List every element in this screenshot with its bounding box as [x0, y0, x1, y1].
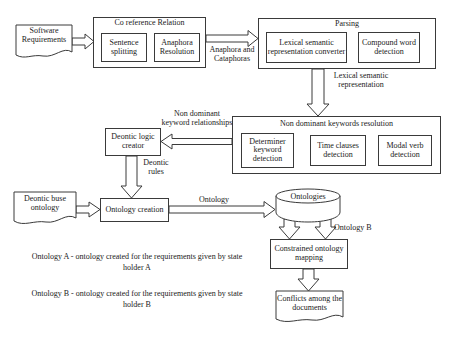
determiner-keyword-detection-box: Determiner keyword detection: [241, 133, 294, 168]
modal-verb-detection-label: Modal verb detection: [379, 142, 431, 159]
conflicts-among-documents-node: Conflicts among the documents: [276, 291, 343, 325]
coref-relation-title: Co reference Relation: [93, 19, 206, 27]
legend-caption-ontology-a: Ontology A - ontology created for the re…: [24, 252, 250, 274]
edge-label-nondominant-keyword-relationships: Non dominant keyword relationships: [161, 110, 233, 128]
determiner-keyword-detection-label: Determiner keyword detection: [242, 138, 293, 164]
lexical-semantic-converter-box: Lexical semantic representation converte…: [266, 32, 347, 63]
deontic-logic-creator-box: Deontic logic creator: [105, 128, 161, 156]
deontic-base-ontology-node: Deontic buse ontology: [14, 192, 76, 226]
sentence-splitting-label: Sentence splitting: [102, 39, 146, 56]
edge-label-ontology: Ontology: [193, 196, 235, 205]
constrained-ontology-mapping-box: Constrained ontology mapping: [270, 239, 348, 269]
compound-word-detection-box: Compound word detection: [358, 32, 420, 63]
arrow-baseontology-to-ontologycreation: [76, 202, 100, 217]
arrow-mapping-to-conflicts: [298, 269, 319, 291]
deontic-base-ontology-label: Deontic buse ontology: [14, 195, 76, 213]
arrow-requirements-to-coref: [72, 34, 94, 49]
ontology-creation-label: Ontology creation: [106, 206, 164, 215]
time-clauses-detection-label: Time clauses detection: [311, 142, 365, 159]
anaphora-resolution-box: Anaphora Resolution: [154, 33, 200, 62]
edge-label-ontology-b: Ontology B: [334, 224, 380, 233]
diagram-canvas: Software Requirements Deontic buse ontol…: [0, 0, 449, 344]
deontic-logic-creator-label: Deontic logic creator: [106, 133, 160, 150]
edge-label-lexical-semantic-representation: Lexical semantic representation: [330, 72, 392, 90]
software-requirements-label: Software Requirements: [16, 27, 72, 45]
anaphora-resolution-label: Anaphora Resolution: [155, 39, 199, 56]
edge-label-deontic-rules: Deontic rules: [139, 159, 173, 177]
time-clauses-detection-box: Time clauses detection: [310, 135, 366, 166]
edge-label-anaphora-cataphoras: Anaphora and Cataphoras: [207, 46, 257, 64]
arrow-nondominant-to-deontic: [161, 134, 232, 149]
legend-caption-ontology-b: Ontology B - ontology created for the re…: [24, 289, 250, 311]
arrow-parsing-to-nondominant: [307, 69, 329, 116]
conflicts-among-documents-label: Conflicts among the documents: [276, 295, 343, 313]
ontologies-store-label: Ontologies: [276, 192, 340, 201]
nondominant-keywords-title: Non dominant keywords resolution: [232, 120, 441, 128]
ontology-creation-box: Ontology creation: [100, 198, 169, 222]
modal-verb-detection-box: Modal verb detection: [378, 135, 432, 166]
software-requirements-node: Software Requirements: [16, 25, 72, 58]
constrained-ontology-mapping-label: Constrained ontology mapping: [271, 245, 347, 262]
sentence-splitting-box: Sentence splitting: [101, 33, 147, 62]
ontologies-store-node: Ontologies: [276, 189, 340, 223]
lexical-semantic-converter-label: Lexical semantic representation converte…: [267, 39, 346, 56]
parsing-title: Parsing: [258, 20, 436, 28]
compound-word-detection-label: Compound word detection: [359, 39, 419, 56]
